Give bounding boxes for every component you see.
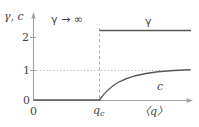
y-tick-label-2: 2 bbox=[22, 32, 29, 43]
x-origin-label: 0 bbox=[30, 106, 37, 117]
y-axis-title: γ, c bbox=[4, 11, 24, 22]
curve-label-gamma: γ bbox=[145, 16, 152, 27]
annotation-gamma-diverges: γ → ∞ bbox=[51, 14, 83, 25]
x-tick-label-qc-subscript: c bbox=[100, 109, 104, 118]
figure-container: γ, c 2 1 0 0 qc 〈q〉 γ → ∞ γ c bbox=[0, 0, 199, 127]
x-tick-label-qc-base: q bbox=[93, 104, 100, 117]
curve-c bbox=[100, 70, 191, 100]
x-axis-arrowhead bbox=[187, 98, 193, 102]
y-tick-label-0: 0 bbox=[23, 95, 30, 106]
curve-label-c: c bbox=[157, 81, 163, 92]
x-axis-title: 〈q〉 bbox=[139, 106, 168, 117]
y-axis-arrowhead bbox=[31, 12, 35, 18]
y-tick-label-1: 1 bbox=[23, 65, 30, 76]
x-tick-label-qc: qc bbox=[93, 105, 105, 118]
